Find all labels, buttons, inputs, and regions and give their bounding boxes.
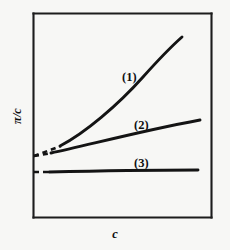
- curve-1-line: [60, 37, 182, 146]
- curve-2-extrapolation: [34, 153, 52, 156]
- plot-canvas: (1) (2) (3) π/c c: [0, 0, 230, 250]
- curve-3-line: [49, 170, 198, 172]
- curve-2: [34, 120, 200, 156]
- curve-1-label: (1): [122, 70, 137, 84]
- x-axis-label: c: [112, 227, 118, 241]
- curve-2-label: (2): [134, 118, 149, 132]
- y-axis-label: π/c: [10, 108, 24, 124]
- curve-1: [34, 37, 182, 156]
- osmotic-pressure-figure: (1) (2) (3) π/c c: [0, 0, 230, 250]
- plot-frame: [34, 14, 212, 218]
- curve-3-label: (3): [134, 156, 149, 170]
- curve-3: [34, 170, 198, 172]
